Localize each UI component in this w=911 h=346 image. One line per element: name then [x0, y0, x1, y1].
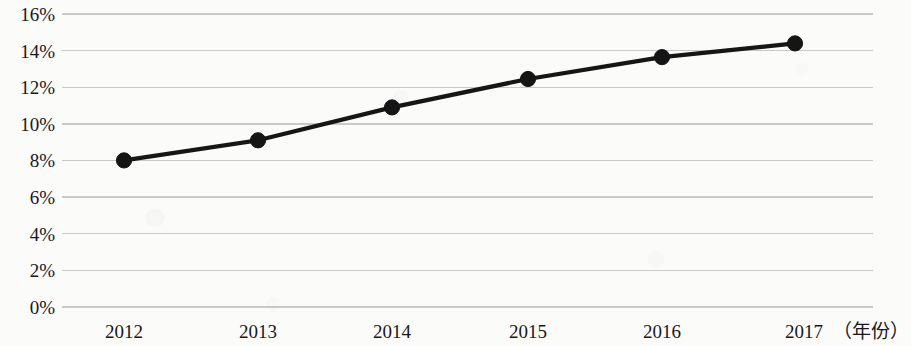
gridlines	[62, 14, 873, 307]
y-tick-label-12: 12%	[20, 77, 55, 98]
line-chart: 16% 14% 12% 10% 8% 6% 4% 2% 0% 2012 2013…	[0, 0, 911, 346]
y-tick-label-2: 2%	[30, 260, 56, 281]
data-point-2013	[250, 133, 265, 148]
x-axis-unit-label: （年份）	[833, 321, 909, 342]
data-point-2015	[520, 71, 535, 86]
data-point-2016	[654, 50, 669, 65]
data-point-2012	[116, 153, 131, 168]
x-tick-label-2017: 2017	[785, 321, 823, 342]
x-tick-label-2014: 2014	[373, 321, 412, 342]
y-tick-label-0: 0%	[30, 297, 56, 318]
y-tick-label-4: 4%	[30, 224, 56, 245]
series-line	[124, 43, 795, 160]
x-tick-label-2016: 2016	[643, 321, 681, 342]
y-tick-label-10: 10%	[20, 114, 55, 135]
y-axis-tick-labels: 16% 14% 12% 10% 8% 6% 4% 2% 0%	[20, 4, 55, 318]
y-tick-label-6: 6%	[30, 187, 56, 208]
y-tick-label-16: 16%	[20, 4, 55, 25]
x-tick-label-2015: 2015	[509, 321, 547, 342]
y-tick-label-14: 14%	[20, 41, 55, 62]
chart-canvas: 16% 14% 12% 10% 8% 6% 4% 2% 0% 2012 2013…	[0, 0, 911, 346]
data-point-2017	[787, 36, 802, 51]
x-axis-tick-labels: 2012 2013 2014 2015 2016 2017	[105, 321, 823, 342]
x-tick-label-2012: 2012	[105, 321, 143, 342]
y-tick-label-8: 8%	[30, 150, 56, 171]
data-point-2014	[384, 100, 399, 115]
x-tick-label-2013: 2013	[239, 321, 277, 342]
